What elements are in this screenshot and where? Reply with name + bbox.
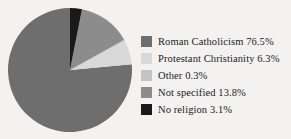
legend-item[interactable]: Not specified 13.8%: [141, 84, 291, 101]
legend-item-label: Protestant Christianity 6.3%: [158, 53, 280, 65]
legend-item-label: No religion 3.1%: [158, 104, 232, 116]
legend-swatch-protestant-christianity: [141, 53, 152, 64]
pie-chart-svg: [8, 8, 132, 132]
chart-legend: Roman Catholicism 76.5%Protestant Christ…: [141, 33, 291, 118]
pie-chart-plot-area: [8, 8, 132, 132]
legend-item[interactable]: No religion 3.1%: [141, 101, 291, 118]
legend-item[interactable]: Protestant Christianity 6.3%: [141, 50, 291, 67]
legend-swatch-roman-catholicism: [141, 36, 152, 47]
legend-swatch-other: [141, 70, 152, 81]
legend-item-label: Other 0.3%: [158, 70, 207, 82]
legend-swatch-no-religion: [141, 104, 152, 115]
legend-item[interactable]: Other 0.3%: [141, 67, 291, 84]
legend-item-label: Roman Catholicism 76.5%: [158, 36, 274, 48]
pie-slice-group: [8, 8, 132, 132]
legend-item[interactable]: Roman Catholicism 76.5%: [141, 33, 291, 50]
pie-chart-figure: Roman Catholicism 76.5%Protestant Christ…: [0, 0, 291, 139]
legend-swatch-not-specified: [141, 87, 152, 98]
legend-item-label: Not specified 13.8%: [158, 87, 246, 99]
